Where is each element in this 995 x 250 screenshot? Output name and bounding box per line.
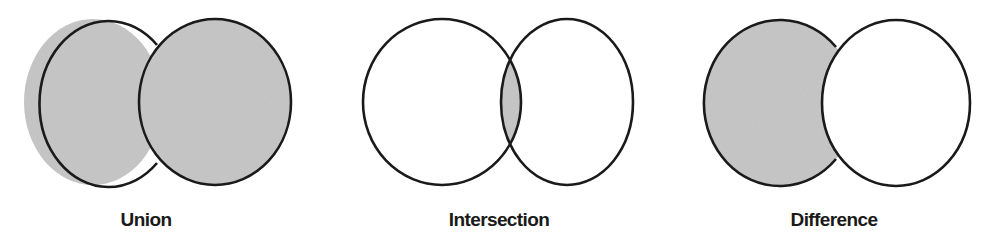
intersection-set-a-outline bbox=[363, 19, 521, 185]
intersection-panel: Intersection bbox=[363, 19, 633, 230]
set-operations-diagram: Union Intersection Difference bbox=[0, 0, 995, 250]
difference-panel: Difference bbox=[704, 20, 970, 230]
union-panel: Union bbox=[24, 19, 291, 230]
difference-label: Difference bbox=[791, 209, 878, 230]
intersection-label: Intersection bbox=[449, 209, 550, 230]
union-label: Union bbox=[121, 209, 172, 230]
